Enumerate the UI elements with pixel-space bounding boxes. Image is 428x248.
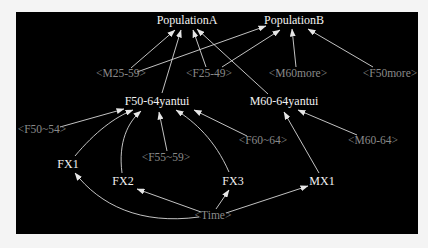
path-diagram-canvas <box>16 12 418 234</box>
node-time: <Time> <box>195 210 232 222</box>
edge-fx1-f5064 <box>75 110 133 156</box>
edge-time-fx3 <box>216 190 229 209</box>
edge-f50more-popB <box>308 29 373 67</box>
node-fx2: FX2 <box>112 175 133 187</box>
edge-time-fx2 <box>137 189 201 212</box>
edge-m2559-popA <box>131 30 175 68</box>
edge-time-fx1 <box>75 173 199 219</box>
edge-f5559-f5064 <box>159 112 167 151</box>
edge-f5064-popA <box>162 30 181 93</box>
node-f50more: <F50more> <box>363 68 418 80</box>
node-fx3: FX3 <box>222 175 243 187</box>
edge-m6064-m6064y <box>298 110 357 135</box>
node-f60-64: <F60~64> <box>239 135 288 147</box>
edge-time-mx1 <box>226 186 308 213</box>
edges-layer <box>16 12 418 234</box>
node-f25-49: <F25-49> <box>186 68 232 80</box>
node-mx1: MX1 <box>309 175 334 187</box>
edge-f2549-popB <box>222 30 280 67</box>
node-population-a: PopulationA <box>157 14 218 26</box>
edge-m60more-popB <box>292 29 296 67</box>
node-population-b: PopulationB <box>264 14 324 26</box>
edge-f5054-f5064 <box>60 109 124 127</box>
edge-fx2-f5064 <box>121 111 141 173</box>
node-m25-59: <M25-59> <box>96 68 146 80</box>
edge-m6064y-popA <box>197 29 268 94</box>
node-f55-59: <F55~59> <box>142 152 191 164</box>
node-m60-64yantui: M60-64yantui <box>250 95 319 107</box>
node-m60-64: <M60-64> <box>348 135 398 147</box>
node-f50-64yantui: F50-64yantui <box>125 95 190 107</box>
edge-f6064-f5064 <box>194 110 247 136</box>
node-m60more: <M60more> <box>269 68 327 80</box>
node-f50-54: <F50~54> <box>18 124 67 136</box>
edge-mx1-m6064y <box>284 112 319 173</box>
node-fx1: FX1 <box>57 158 78 170</box>
